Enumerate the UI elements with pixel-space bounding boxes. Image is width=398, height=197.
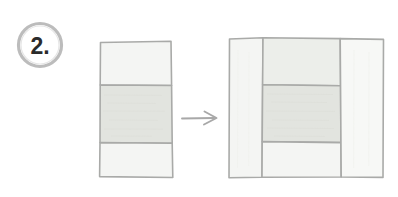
step-badge: 2. xyxy=(19,24,62,67)
diagram-canvas: 2. xyxy=(0,0,398,197)
before-block xyxy=(100,41,173,177)
step-number-label: 2. xyxy=(30,33,49,59)
construction-diagram: 2. xyxy=(0,0,398,197)
after-center-bottom-cell xyxy=(262,142,341,178)
before-bottom-band xyxy=(100,143,173,178)
after-center-top-cell xyxy=(263,38,341,86)
after-right-column xyxy=(340,39,383,178)
before-middle-band-shaded xyxy=(100,85,172,143)
after-left-column xyxy=(229,38,263,178)
arrow-shaft xyxy=(182,118,214,119)
after-center-middle-cell-shaded xyxy=(262,85,341,143)
after-block xyxy=(229,38,384,178)
before-top-band xyxy=(100,41,171,85)
